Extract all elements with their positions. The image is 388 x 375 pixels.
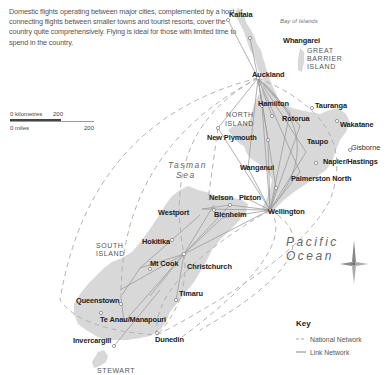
scale-mi-label: 0 miles bbox=[10, 125, 29, 131]
label-north-island-2: ISLAND bbox=[225, 120, 254, 127]
label-bay-of-islands: Bay of Islands bbox=[280, 18, 318, 24]
key-title: Key bbox=[296, 319, 311, 328]
label-great-barrier: GREAT bbox=[307, 47, 334, 54]
scale-km-label: 0 kilometres bbox=[10, 111, 42, 117]
city-timaru: Timaru bbox=[179, 289, 203, 298]
city-taupo: Taupo bbox=[307, 137, 329, 146]
city-kaitaia: Kaitaia bbox=[229, 10, 254, 19]
label-south-island-2: ISLAND bbox=[96, 250, 125, 257]
city-hamilton: Hamilton bbox=[258, 99, 289, 108]
city-wanganui: Wanganui bbox=[240, 163, 274, 172]
city-hokitika: Hokitika bbox=[142, 237, 171, 246]
city-nelson: Nelson bbox=[209, 193, 234, 202]
city-picton: Picton bbox=[239, 193, 262, 202]
label-stewart: STEWART bbox=[97, 367, 135, 374]
city-wakatane: Wakatane bbox=[340, 120, 373, 129]
city-whangarei: Whangarei bbox=[283, 36, 320, 45]
label-south-island: SOUTH bbox=[96, 242, 124, 249]
city-mt-cook: Mt Cook bbox=[150, 259, 179, 268]
city-dunedin: Dunedin bbox=[155, 335, 184, 344]
key-link: Link Network bbox=[310, 349, 350, 356]
city-invercargill: Invercargill bbox=[73, 336, 111, 345]
scale-bar: 0 kilometres 200 0 miles 200 bbox=[10, 111, 95, 131]
great-barrier-land bbox=[298, 48, 304, 72]
city-te-anau: Te Anau/Manapouri bbox=[100, 315, 166, 324]
city-tauranga: Tauranga bbox=[315, 101, 348, 110]
scale-mi-value: 200 bbox=[84, 125, 95, 131]
label-pacific-2: Ocean bbox=[286, 249, 334, 263]
map-key: Key National Network Link Network bbox=[296, 319, 362, 356]
scale-km-value: 200 bbox=[53, 111, 64, 117]
compass-rose-icon bbox=[340, 240, 368, 284]
label-north-island: NORTH bbox=[226, 111, 254, 118]
key-national: National Network bbox=[310, 336, 362, 343]
city-wellington: Wellington bbox=[268, 207, 305, 216]
label-tasman: Tasman bbox=[168, 160, 207, 170]
nz-flight-map: 0 kilometres 200 0 miles 200 NORTH ISLAN… bbox=[0, 0, 388, 375]
label-tasman-2: Sea bbox=[176, 170, 196, 180]
city-palmerston: Palmerston North bbox=[291, 174, 352, 183]
city-new-plymouth: New Plymouth bbox=[207, 133, 257, 142]
label-great-barrier-3: ISLAND bbox=[307, 63, 336, 70]
city-queenstown: Queenstown bbox=[76, 296, 120, 305]
city-napier: Napier/Hastings bbox=[323, 157, 378, 166]
city-westport: Westport bbox=[158, 208, 190, 217]
city-rotorua: Rotorua bbox=[282, 114, 311, 123]
city-christchurch: Christchurch bbox=[187, 262, 232, 271]
label-great-barrier-2: BARRIER bbox=[307, 55, 342, 62]
city-auckland: Auckland bbox=[252, 70, 285, 79]
stewart-island-land bbox=[92, 350, 108, 368]
label-pacific: Pacific bbox=[286, 235, 339, 249]
city-gisborne: Gisborne bbox=[351, 143, 380, 152]
city-blenheim: Blenheim bbox=[214, 210, 247, 219]
